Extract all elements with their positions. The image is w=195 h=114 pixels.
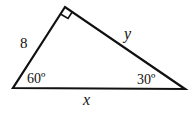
angle-label-bottom-right: 30º	[137, 73, 155, 87]
side-label-base: x	[83, 92, 90, 108]
angle-label-bottom-left: 60º	[27, 72, 45, 86]
triangle-figure	[0, 0, 195, 114]
side-label-left: 8	[20, 36, 28, 51]
side-label-hypotenuse: y	[124, 26, 131, 42]
